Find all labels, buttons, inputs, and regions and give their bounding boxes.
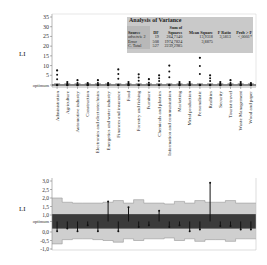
svg-text:1,0: 1,0 bbox=[42, 212, 49, 218]
svg-text:-1,0: -1,0 bbox=[40, 246, 49, 252]
svg-text:-0,5: -0,5 bbox=[40, 238, 49, 244]
svg-text:2,5: 2,5 bbox=[42, 187, 49, 193]
svg-text:optimum: optimum bbox=[33, 219, 50, 224]
svg-text:2,0: 2,0 bbox=[42, 195, 49, 201]
svg-text:0,0: 0,0 bbox=[42, 229, 49, 235]
svg-text:1,5: 1,5 bbox=[42, 204, 49, 210]
bottom-y-axis-label: LI bbox=[19, 205, 26, 213]
bottom-control-chart: 3,02,52,01,51,0optimum0,0-0,5-1,0 bbox=[0, 0, 267, 265]
svg-text:3,0: 3,0 bbox=[42, 178, 49, 184]
